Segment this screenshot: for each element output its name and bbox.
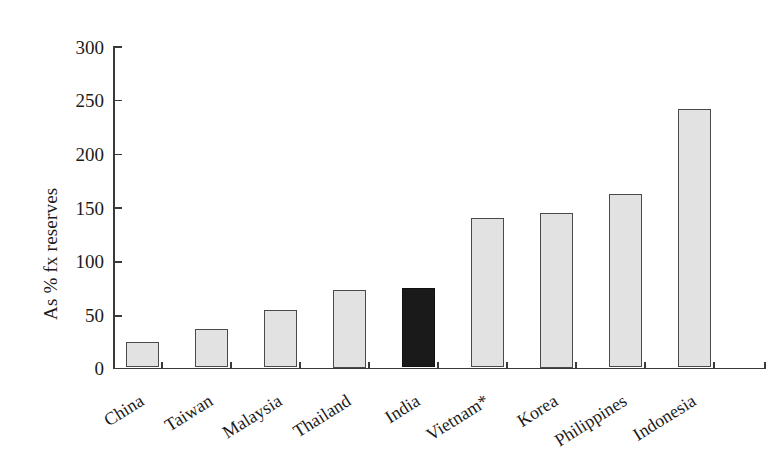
bar-thailand [333,290,366,368]
x-tick-mark-9 [713,362,715,368]
y-tick-mark-100 [114,261,122,263]
x-tick-mark-10 [764,362,766,368]
y-tick-mark-300 [114,46,122,48]
bar-malaysia [264,310,297,367]
y-tick-label-150: 150 [58,199,104,218]
bar-vietnam [471,218,504,368]
y-tick-label-300: 300 [58,38,104,57]
bar-taiwan [195,329,228,368]
bar-india [402,288,435,368]
y-tick-mark-50 [114,315,122,317]
bar-philippines [609,194,642,367]
y-tick-label-100: 100 [58,252,104,271]
y-tick-mark-250 [114,100,122,102]
y-tick-label-50: 50 [58,306,104,325]
y-tick-mark-150 [114,207,122,209]
x-tick-mark-8 [644,362,646,368]
x-tick-mark-3 [299,362,301,368]
y-tick-label-200: 200 [58,145,104,164]
x-tick-mark-5 [437,362,439,368]
x-tick-mark-7 [575,362,577,368]
x-tick-mark-2 [230,362,232,368]
x-axis-line [113,368,766,370]
x-tick-mark-6 [506,362,508,368]
bar-china [126,342,159,368]
y-tick-label-250: 250 [58,91,104,110]
y-tick-label-0: 0 [58,359,104,378]
x-tick-mark-1 [161,362,163,368]
x-tick-mark-4 [368,362,370,368]
bar-chart: As % fx reserves 300 250 200 150 100 50 … [0,0,783,467]
bar-korea [540,213,573,368]
y-tick-mark-200 [114,154,122,156]
bar-indonesia [678,109,711,367]
